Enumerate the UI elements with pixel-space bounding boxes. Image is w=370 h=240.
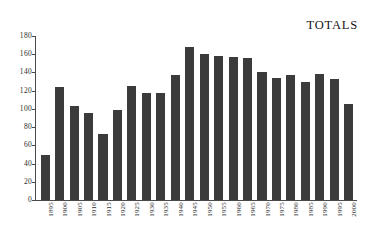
bar xyxy=(185,47,194,200)
bar xyxy=(142,93,151,201)
x-tick-label: 1970 xyxy=(265,202,272,217)
y-tick-label: 160 xyxy=(6,50,32,58)
x-tick-label: 1995 xyxy=(337,202,344,217)
bar xyxy=(257,72,266,200)
bar xyxy=(344,104,353,200)
x-tick-label: 1935 xyxy=(163,202,170,217)
bar xyxy=(214,56,223,200)
bar xyxy=(330,79,339,200)
bar xyxy=(55,87,64,200)
bar xyxy=(127,86,136,200)
x-axis-labels: 1895190019051910191519201925193019351940… xyxy=(38,202,356,240)
x-tick-label: 1975 xyxy=(279,202,286,217)
bar-chart: TOTALS 020406080100120140160180 18951900… xyxy=(0,0,370,240)
y-tick-label: 100 xyxy=(6,105,32,113)
x-tick-label: 1930 xyxy=(149,202,156,217)
x-tick-label: 1980 xyxy=(293,202,300,217)
x-tick-label: 2000 xyxy=(351,202,358,217)
bar xyxy=(84,113,93,200)
y-tick-label: 0 xyxy=(6,196,32,204)
x-tick-label: 1950 xyxy=(207,202,214,217)
bar xyxy=(98,134,107,201)
bar xyxy=(243,58,252,200)
y-tick-label: 40 xyxy=(6,160,32,168)
x-tick-label: 1895 xyxy=(48,202,55,217)
bar xyxy=(229,57,238,200)
y-tick-label: 80 xyxy=(6,123,32,131)
x-tick-label: 1960 xyxy=(236,202,243,217)
y-tick-label: 180 xyxy=(6,32,32,40)
bar xyxy=(41,155,50,200)
bar xyxy=(315,74,324,200)
bar xyxy=(200,54,209,200)
x-tick-label: 1900 xyxy=(62,202,69,217)
chart-title: TOTALS xyxy=(307,18,359,33)
x-tick-label: 1985 xyxy=(308,202,315,217)
y-tick-label: 140 xyxy=(6,68,32,76)
bar xyxy=(286,75,295,200)
y-tick-label: 20 xyxy=(6,178,32,186)
bar xyxy=(70,106,79,200)
bar xyxy=(272,78,281,200)
plot-area xyxy=(38,36,356,200)
y-tick-label: 60 xyxy=(6,141,32,149)
x-tick-label: 1910 xyxy=(91,202,98,217)
y-axis-line xyxy=(35,36,36,201)
x-tick-label: 1990 xyxy=(322,202,329,217)
x-tick-label: 1905 xyxy=(77,202,84,217)
bar xyxy=(156,93,165,200)
x-tick-label: 1940 xyxy=(178,202,185,217)
bar xyxy=(171,75,180,200)
y-tick-label: 120 xyxy=(6,87,32,95)
x-tick-label: 1925 xyxy=(134,202,141,217)
x-tick-label: 1920 xyxy=(120,202,127,217)
y-axis-ticks: 020406080100120140160180 xyxy=(0,0,32,240)
x-tick-label: 1915 xyxy=(106,202,113,217)
bar xyxy=(301,82,310,200)
x-tick-label: 1955 xyxy=(221,202,228,217)
x-tick-label: 1945 xyxy=(192,202,199,217)
bar xyxy=(113,110,122,200)
x-tick-label: 1965 xyxy=(250,202,257,217)
